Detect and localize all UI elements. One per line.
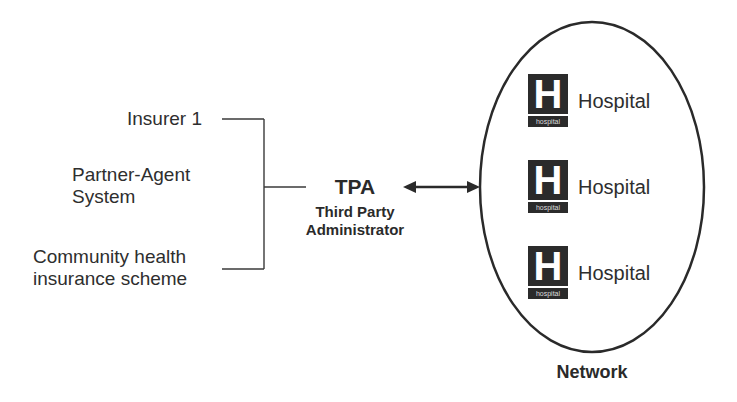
hospital-label: Hospital — [578, 262, 650, 285]
source-insurer-1: Insurer 1 — [60, 108, 202, 130]
tpa-abbr: TPA — [290, 175, 420, 199]
hospital-icon: H hospital — [528, 160, 568, 213]
tpa-full-name: Third Party Administrator — [280, 203, 430, 239]
source-community-health: Community health insurance scheme — [0, 246, 210, 290]
source-partner-agent: Partner-Agent System — [40, 164, 198, 208]
hospital-label: Hospital — [578, 176, 650, 199]
hospital-icon: H hospital — [528, 246, 568, 299]
hospital-label: Hospital — [578, 90, 650, 113]
network-label: Network — [532, 362, 652, 383]
hospital-icon: H hospital — [528, 74, 568, 127]
